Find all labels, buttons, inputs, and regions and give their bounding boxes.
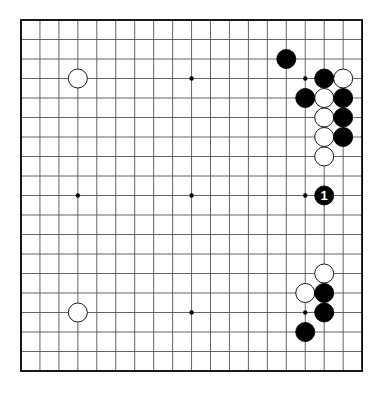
black-stone-icon	[296, 89, 315, 108]
black-stone	[296, 89, 315, 108]
white-stone-icon	[68, 69, 87, 88]
star-point-icon	[303, 310, 307, 314]
white-stone-icon	[315, 128, 334, 147]
white-stone	[315, 147, 334, 166]
star-point-icon	[303, 193, 307, 197]
black-stone-icon	[334, 108, 353, 127]
black-stone-icon	[334, 89, 353, 108]
black-stone-icon	[334, 128, 353, 147]
black-stone	[334, 89, 353, 108]
star-point-icon	[189, 76, 193, 80]
white-stone	[315, 128, 334, 147]
black-stone	[315, 69, 334, 88]
black-stone	[296, 323, 315, 342]
star-point-icon	[189, 310, 193, 314]
white-stone-icon	[68, 303, 87, 322]
white-stone	[315, 108, 334, 127]
black-stone: 1	[315, 186, 334, 205]
black-stone-icon	[277, 50, 296, 69]
black-stone	[315, 303, 334, 322]
white-stone-icon	[315, 147, 334, 166]
move-number-label: 1	[321, 188, 328, 203]
star-point-icon	[303, 76, 307, 80]
white-stone	[68, 303, 87, 322]
go-board: 1	[0, 0, 382, 393]
black-stone	[334, 108, 353, 127]
white-stone	[296, 284, 315, 303]
white-stone	[68, 69, 87, 88]
star-point-icon	[76, 193, 80, 197]
white-stone-icon	[315, 108, 334, 127]
white-stone	[334, 69, 353, 88]
black-stone-icon	[315, 284, 334, 303]
black-stone-icon	[315, 69, 334, 88]
white-stone	[315, 89, 334, 108]
white-stone-icon	[315, 264, 334, 283]
black-stone	[334, 128, 353, 147]
black-stone-icon	[315, 303, 334, 322]
black-stone	[277, 50, 296, 69]
white-stone-icon	[315, 89, 334, 108]
white-stone-icon	[334, 69, 353, 88]
black-stone-icon	[296, 323, 315, 342]
white-stone	[315, 264, 334, 283]
star-point-icon	[189, 193, 193, 197]
black-stone	[315, 284, 334, 303]
white-stone-icon	[296, 284, 315, 303]
